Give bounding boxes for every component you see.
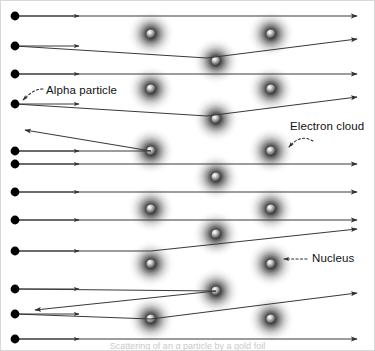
rutherford-scattering-figure: Alpha particle Electron cloud Nucleus Sc… (0, 0, 375, 351)
atom-with-nucleus-label (247, 240, 295, 288)
alpha-particle-dot (11, 310, 20, 319)
atom (192, 95, 240, 143)
atom-column-1 (127, 10, 175, 343)
atom (247, 10, 295, 58)
atom (247, 127, 295, 175)
beam-path-incoming (15, 289, 216, 291)
atom-column-2 (192, 37, 240, 315)
alpha-particle-label: Alpha particle (46, 85, 117, 97)
alpha-particle-dot (11, 285, 20, 294)
alpha-particle-dot (11, 216, 20, 225)
alpha-particle-leader-arrow (23, 89, 43, 100)
alpha-particle-dot (11, 42, 20, 51)
alpha-particle-dots (11, 12, 20, 344)
alpha-particle-dot (11, 247, 20, 256)
alpha-trajectories (15, 16, 357, 339)
atom (127, 65, 175, 113)
atom (127, 240, 175, 288)
atom (192, 37, 240, 85)
beam-path-deflected (15, 97, 357, 116)
figure-caption: Scattering of an α particle by a gold fo… (1, 341, 374, 350)
beam-path-backscattered (35, 291, 216, 310)
beam-path-deflected (15, 39, 357, 58)
alpha-particle-dot (11, 12, 20, 21)
alpha-particle-dot (11, 70, 20, 79)
alpha-particle-dot (11, 147, 20, 156)
electron-cloud-label: Electron cloud (290, 121, 364, 133)
nucleus-label: Nucleus (312, 253, 354, 265)
atom (192, 153, 240, 201)
atom (127, 10, 175, 58)
scattering-diagram-canvas (1, 1, 375, 351)
alpha-particle-dot (11, 188, 20, 197)
alpha-particle-dot (11, 160, 20, 169)
beam-path-deflected (15, 293, 357, 319)
atom (192, 210, 240, 258)
atom-column-3 (247, 10, 295, 343)
alpha-particle-dot (11, 100, 20, 109)
beam-path-deflected (15, 229, 357, 251)
